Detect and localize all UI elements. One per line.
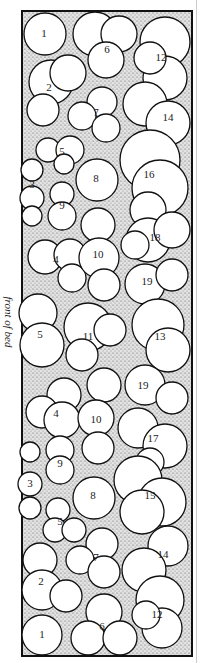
plant-label: 19	[142, 275, 154, 287]
plant-label: 1	[41, 27, 47, 39]
plant-label: 2	[46, 81, 52, 93]
plant-label: 6	[99, 620, 105, 632]
plant-label: 10	[93, 248, 105, 260]
plant-label: 12	[156, 51, 167, 63]
front-of-bed-label: front of bed	[2, 272, 16, 372]
plant-label: 17	[148, 432, 160, 444]
side-label-text: front of bed	[3, 297, 15, 348]
plant-label: 11	[83, 330, 94, 342]
plant-label: 5	[59, 145, 65, 157]
plant-label: 5	[57, 515, 63, 527]
planting-bed-diagram: 1612271453816918410195111319410179381557…	[0, 0, 201, 663]
plant-label: 10	[91, 413, 103, 425]
plant-label: 12	[152, 608, 163, 620]
plant-label: 8	[90, 489, 96, 501]
plant-label: 14	[163, 111, 175, 123]
plant-label: 3	[27, 477, 33, 489]
plant-label: 7	[93, 106, 99, 118]
plant-label: 13	[155, 330, 167, 342]
plant-label: 5	[37, 328, 43, 340]
plant-label: 9	[59, 199, 65, 211]
plant-label: 7	[93, 551, 99, 563]
plant-label: 4	[53, 253, 59, 265]
plant-label: 1	[39, 628, 45, 640]
plant-label: 14	[158, 548, 170, 560]
plant-label: 19	[138, 379, 150, 391]
plant-label: 15	[145, 489, 157, 501]
plant-label: 2	[38, 575, 44, 587]
plant-label: 9	[57, 457, 63, 469]
plant-label: 18	[150, 231, 162, 243]
plant-label: 16	[144, 168, 156, 180]
plant-label: 6	[104, 43, 110, 55]
plant-label: 8	[93, 172, 99, 184]
plant-label: 3	[29, 178, 35, 190]
plant-label: 4	[53, 407, 59, 419]
